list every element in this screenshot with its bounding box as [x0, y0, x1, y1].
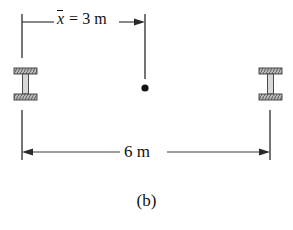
top-unit: m — [94, 10, 106, 27]
left-i-beam — [14, 68, 37, 100]
x-bar-symbol: x — [56, 11, 65, 27]
overbar — [57, 10, 63, 11]
right-i-beam-web — [268, 74, 274, 94]
top-dimension-label: x = 3 m — [56, 11, 107, 27]
right-i-beam — [259, 68, 282, 100]
bottom-dimension-arrowhead-right — [259, 148, 270, 155]
left-i-beam-bottom-flange — [14, 94, 37, 100]
top-dimension-arrowhead-right — [134, 18, 145, 25]
top-value: 3 — [82, 10, 90, 27]
figure-container: x = 3 m 6 m (b) — [0, 0, 293, 230]
x-variable: x — [57, 10, 64, 27]
bottom-dimension-arrowhead-left — [22, 148, 33, 155]
bottom-dimension-label: 6 m — [124, 143, 150, 160]
right-i-beam-top-flange — [259, 68, 282, 74]
bottom-unit: m — [137, 142, 150, 161]
left-i-beam-web — [23, 74, 29, 94]
right-i-beam-bottom-flange — [259, 94, 282, 100]
top-equals: = — [69, 10, 78, 27]
bottom-value: 6 — [124, 142, 133, 161]
left-i-beam-top-flange — [14, 68, 37, 74]
figure-caption: (b) — [0, 192, 293, 209]
centroid-dot — [141, 84, 148, 91]
